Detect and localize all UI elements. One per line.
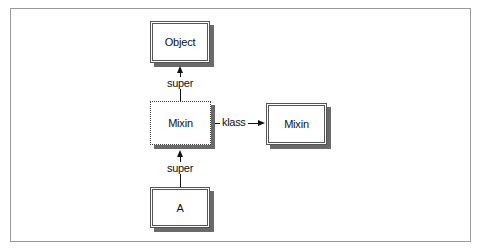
node-a: A xyxy=(150,187,210,228)
edge-label-klass: klass xyxy=(220,116,248,128)
node-mixin-module: Mixin xyxy=(266,103,327,145)
arrow-head-icon xyxy=(258,120,265,126)
edge-label-super-bottom: super xyxy=(166,162,194,174)
node-mixin-proxy-label: Mixin xyxy=(168,117,193,129)
node-object: Object xyxy=(150,21,210,63)
node-object-label: Object xyxy=(165,36,196,48)
node-mixin-module-label: Mixin xyxy=(284,118,309,130)
edge-label-super-top: super xyxy=(166,77,194,89)
node-a-label: A xyxy=(176,202,183,214)
node-mixin-proxy: Mixin xyxy=(150,101,211,145)
